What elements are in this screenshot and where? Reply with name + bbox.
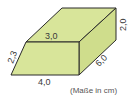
prism-diagram: 3,0 2,3 4,0 6,0 2,0 (Maße in cm) [0,0,131,99]
units-note: (Maße in cm) [70,86,117,95]
prism-front-face [11,42,79,75]
label-bottom-front-edge: 4,0 [38,77,51,87]
label-top-front-edge: 3,0 [45,31,58,41]
label-back-height: 2,0 [118,18,128,31]
